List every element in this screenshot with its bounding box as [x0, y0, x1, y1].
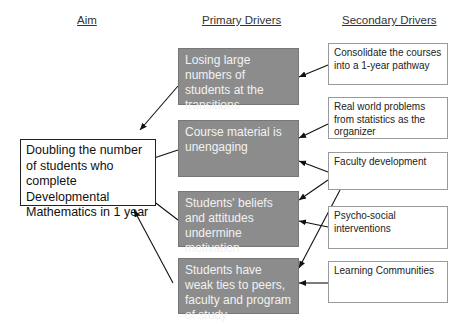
secondary-driver-text: Psycho-social interventions	[334, 210, 396, 234]
arrow-faculty-to-course	[299, 161, 328, 172]
primary-driver-text: Students have weak ties to peers, facult…	[185, 263, 291, 322]
secondary-driver-text: Learning Communities	[334, 265, 434, 276]
secondary-driver-psycho-social: Psycho-social interventions	[328, 206, 448, 249]
primary-driver-text: Losing large numbers of students at the …	[185, 53, 264, 112]
secondary-driver-text: Real world problems from statistics as t…	[334, 101, 425, 137]
primary-driver-text: Course material is unengaging	[185, 125, 282, 154]
aim-text: Doubling the number of students who comp…	[26, 143, 148, 219]
secondary-driver-consolidate: Consolidate the courses into a 1-year pa…	[328, 43, 448, 85]
arrow-weakties-to-aim	[134, 210, 173, 283]
secondary-driver-real-world: Real world problems from statistics as t…	[328, 97, 448, 139]
arrow-realworld-to-course	[299, 124, 328, 138]
primary-driver-losing-students: Losing large numbers of students at the …	[178, 48, 299, 105]
primary-driver-text: Students' beliefs and attitudes undermin…	[185, 196, 273, 255]
arrow-consolidate-to-losing	[299, 65, 328, 77]
secondary-driver-text: Faculty development	[334, 156, 426, 167]
primary-driver-course-material: Course material is unengaging	[178, 120, 299, 177]
arrow-losing-to-aim	[140, 86, 178, 130]
primary-driver-beliefs-attitudes: Students' beliefs and attitudes undermin…	[178, 191, 299, 247]
aim-box: Doubling the number of students who comp…	[20, 139, 156, 206]
primary-driver-weak-ties: Students have weak ties to peers, facult…	[178, 258, 299, 314]
arrow-faculty-to-beliefs	[299, 180, 328, 200]
secondary-driver-learning-communities: Learning Communities	[328, 261, 448, 303]
secondary-driver-faculty-development: Faculty development	[328, 152, 448, 190]
secondary-driver-text: Consolidate the courses into a 1-year pa…	[334, 47, 441, 71]
